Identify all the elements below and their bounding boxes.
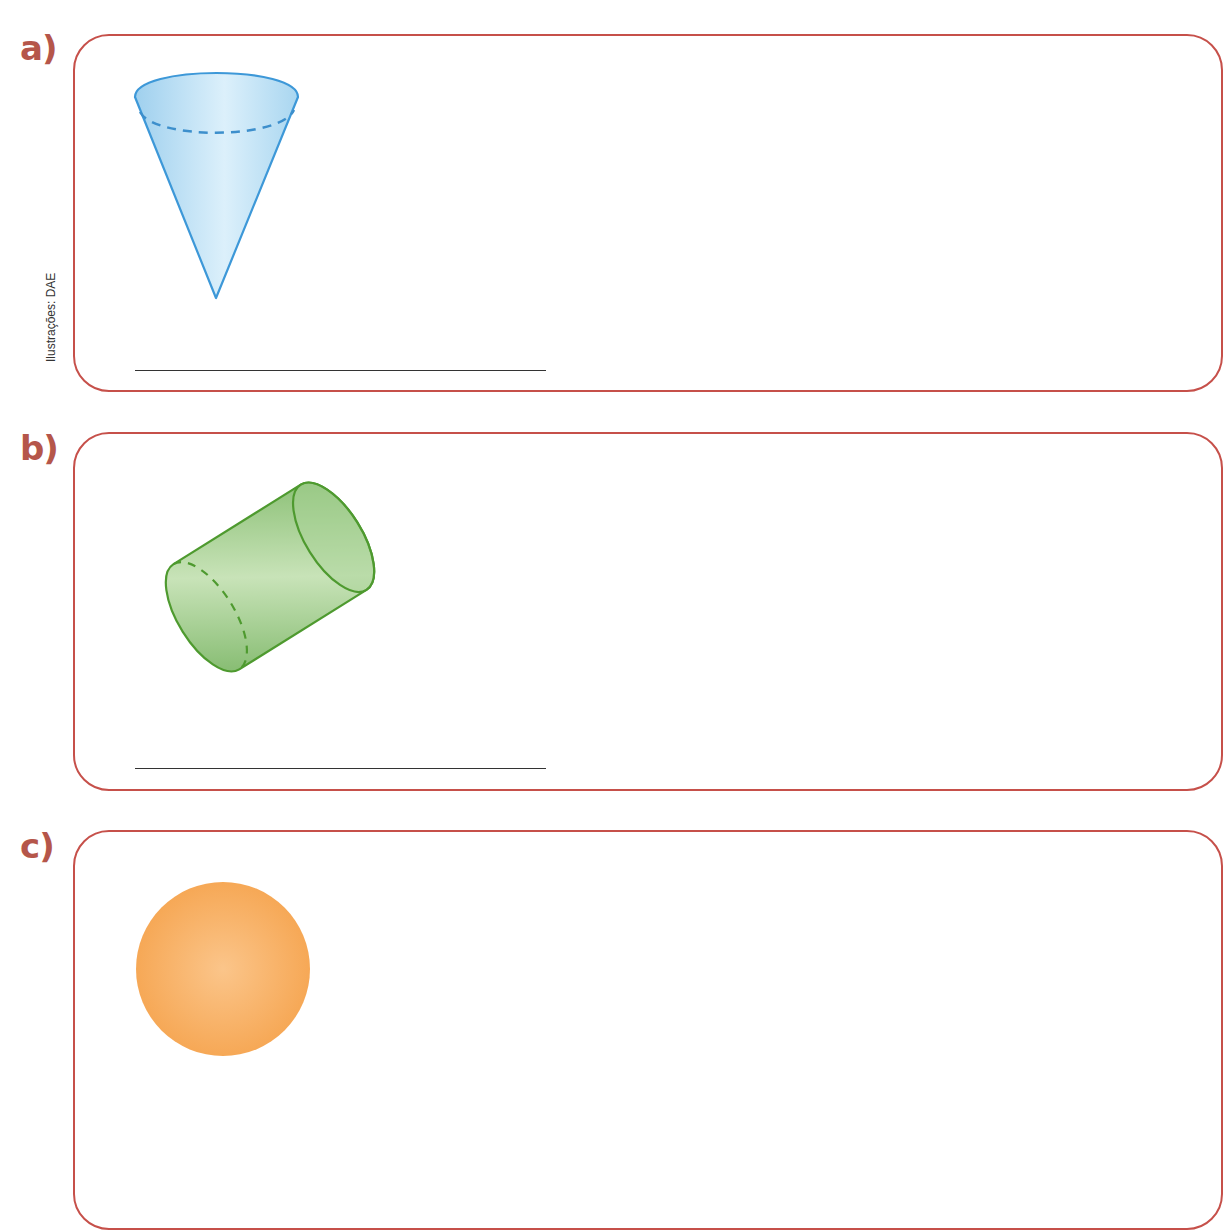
item-label-c: c) xyxy=(20,826,54,866)
cone-icon xyxy=(130,60,305,305)
illustration-credit: Ilustrações: DAE xyxy=(44,273,58,362)
item-label-a: a) xyxy=(20,28,56,68)
answer-line-a[interactable] xyxy=(135,370,546,371)
item-label-b: b) xyxy=(20,428,58,468)
sphere-icon xyxy=(134,880,314,1060)
cylinder-icon xyxy=(150,465,390,690)
answer-line-b[interactable] xyxy=(135,768,546,769)
